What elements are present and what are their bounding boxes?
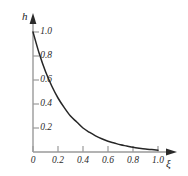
- x-tick-label-1: 0.2: [52, 156, 64, 166]
- y-tick-label-1: 0.4: [28, 99, 52, 109]
- x-axis-arrowhead: [166, 149, 177, 156]
- x-axis-ticks: [33, 146, 158, 152]
- chart-figure: h ξ 0 0.2 0.4 0.6 0.8 1.0 0.2 0.4 0.6 0.…: [0, 0, 188, 176]
- y-tick-label-3: 0.8: [28, 51, 52, 61]
- y-tick-label-0: 0.2: [28, 123, 52, 133]
- y-tick-label-4: 1.0: [28, 27, 52, 37]
- x-tick-label-4: 0.8: [127, 156, 139, 166]
- y-axis-arrowhead: [30, 13, 37, 24]
- y-axis-title: h: [22, 11, 28, 22]
- x-tick-label-3: 0.6: [102, 156, 114, 166]
- y-tick-label-2: 0.6: [28, 75, 52, 85]
- x-tick-label-5: 1.0: [152, 156, 164, 166]
- x-tick-label-2: 0.4: [77, 156, 89, 166]
- x-axis-title: ξ: [166, 158, 171, 169]
- x-tick-label-0: 0: [31, 156, 36, 166]
